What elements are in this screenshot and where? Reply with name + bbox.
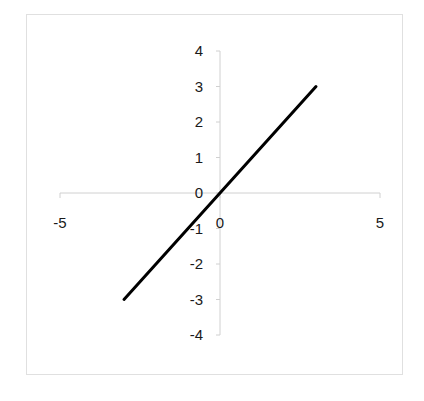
y-tick-label: 4	[195, 42, 203, 59]
y-tick-label: -4	[190, 326, 203, 343]
chart-frame	[27, 15, 403, 375]
y-tick-label: -1	[190, 220, 203, 237]
x-tick-label: -5	[53, 214, 66, 231]
y-tick-label: -3	[190, 291, 203, 308]
y-tick-label: 3	[195, 78, 203, 95]
y-tick-label: -2	[190, 255, 203, 272]
x-tick-label: 5	[376, 214, 384, 231]
y-tick-label: 1	[195, 149, 203, 166]
chart: 43210-1-2-3-4-505	[0, 0, 424, 401]
x-tick-label: 0	[216, 214, 224, 231]
y-tick-label: 2	[195, 113, 203, 130]
y-tick-label: 0	[195, 184, 203, 201]
